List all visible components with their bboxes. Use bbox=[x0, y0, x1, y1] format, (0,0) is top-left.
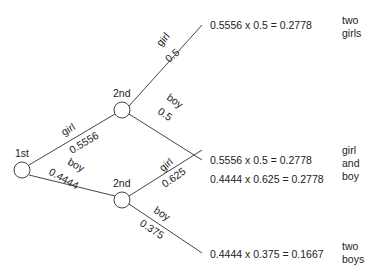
branch-upper-boy-prob: 0.5 bbox=[156, 105, 175, 123]
branch-lower-boy-label: boy bbox=[152, 204, 173, 224]
result-boy-girl: 0.4444 x 0.625 = 0.2778 bbox=[210, 173, 324, 185]
outcome-two-girls-line2: girls bbox=[342, 27, 361, 39]
result-boy-boy: 0.4444 x 0.375 = 0.1667 bbox=[210, 248, 324, 260]
second-node-upper bbox=[114, 102, 130, 118]
probability-tree-diagram: 1st 2nd 2nd girl 0.5556 boy 0.4444 girl … bbox=[0, 0, 377, 272]
outcome-two-girls-line1: two bbox=[342, 14, 359, 26]
result-girl-boy: 0.5556 x 0.5 = 0.2778 bbox=[210, 154, 312, 166]
second-node-lower-label: 2nd bbox=[113, 177, 131, 189]
outcome-two-boys-line1: two bbox=[342, 240, 359, 252]
second-node-upper-label: 2nd bbox=[113, 87, 131, 99]
branch-1st-girl-label: girl bbox=[59, 120, 77, 138]
result-girl-girl: 0.5556 x 0.5 = 0.2778 bbox=[210, 19, 312, 31]
branch-upper-girl-label: girl bbox=[154, 30, 172, 48]
outcome-two-boys-line2: boys bbox=[342, 253, 364, 265]
second-node-lower bbox=[114, 192, 130, 208]
branch-1st-boy-label: boy bbox=[66, 155, 87, 174]
outcome-girl-and-boy-line2: and bbox=[342, 157, 360, 169]
branch-upper-girl-prob: 0.5 bbox=[163, 46, 182, 65]
outcome-girl-and-boy-line3: boy bbox=[342, 170, 360, 182]
root-node-label: 1st bbox=[15, 147, 29, 159]
root-node bbox=[14, 162, 30, 178]
outcome-girl-and-boy-line1: girl bbox=[342, 144, 356, 156]
